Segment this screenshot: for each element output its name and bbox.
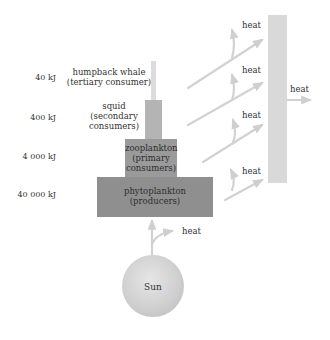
heat-label-1: heat <box>242 20 261 30</box>
heat-label-sink: heat <box>290 84 309 94</box>
heat-arrow-4 <box>225 180 262 200</box>
sun-heat-branch <box>152 231 172 244</box>
heat-branch-1 <box>232 30 234 58</box>
heat-label-4: heat <box>242 166 261 176</box>
sun: Sun <box>122 255 184 317</box>
heat-label-sun: heat <box>182 226 201 236</box>
heat-branch-2 <box>232 75 234 100</box>
heat-label-2: heat <box>242 65 261 75</box>
heat-branch-4 <box>231 170 234 190</box>
sun-label: Sun <box>122 282 184 292</box>
heat-arrow-1 <box>188 40 262 88</box>
heat-branch-3 <box>233 120 235 143</box>
heat-label-3: heat <box>242 110 261 120</box>
